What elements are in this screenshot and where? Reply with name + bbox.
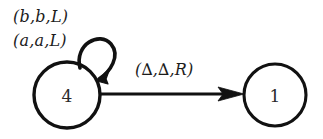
self-loop-label-a: (a,a,L) (13, 31, 67, 50)
self-loop-arrowhead (97, 68, 110, 84)
state-node-1-label: 1 (263, 86, 287, 106)
diagram-canvas: (b,b,L) (a,a,L) (∆,∆,R) 4 1 (0, 0, 323, 139)
transition-label-blank-right: (∆,∆,R) (135, 60, 193, 79)
self-loop-label-b: (b,b,L) (13, 7, 68, 26)
state-node-4-label: 4 (55, 86, 79, 106)
